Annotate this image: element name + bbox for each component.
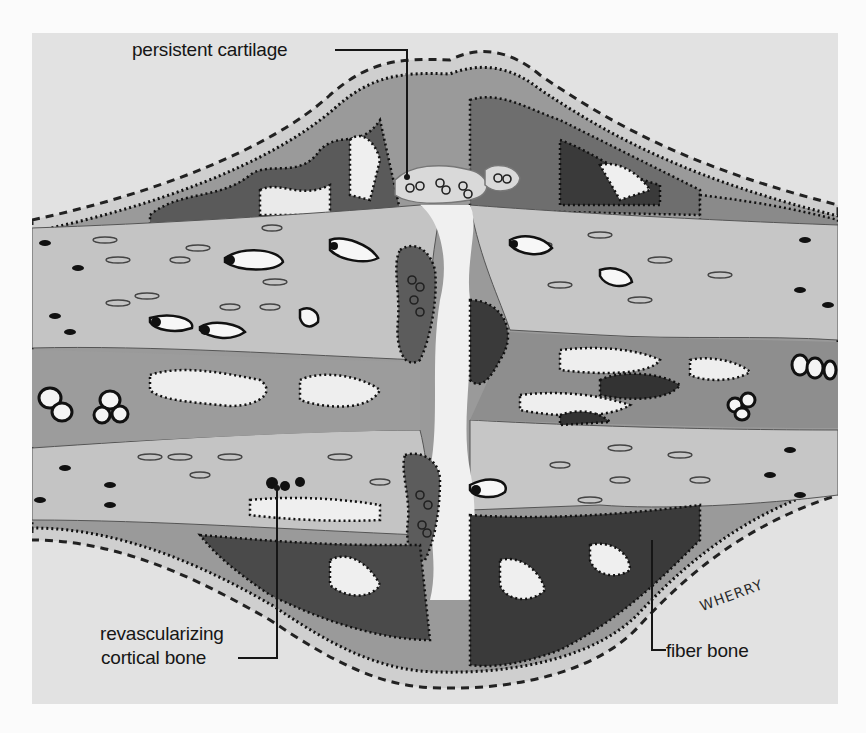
label-persistent-cartilage: persistent cartilage [132,39,287,61]
label-fiber-bone: fiber bone [666,640,749,662]
cortical-bone-upper-right [470,205,838,340]
cortical-bone-lower-right [470,420,838,510]
label-revascularizing-line1: revascularizing [100,623,224,645]
label-cortical-bone-line2: cortical bone [101,647,206,669]
